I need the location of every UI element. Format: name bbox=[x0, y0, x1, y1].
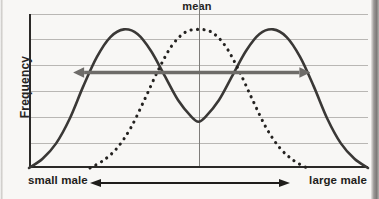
figure-root: mean Frequency small male bbox=[0, 0, 379, 199]
x-axis-low-label: small male bbox=[28, 174, 88, 186]
chart-title-mean: mean bbox=[147, 0, 247, 13]
page-edge-right bbox=[371, 0, 379, 199]
variation-range-arrow bbox=[73, 67, 310, 77]
x-axis-direction-arrow bbox=[90, 172, 290, 194]
page-edge-left bbox=[0, 0, 3, 199]
x-axis-high-label: large male bbox=[309, 174, 367, 186]
curve-original-dotted bbox=[90, 29, 307, 168]
plot-area bbox=[29, 14, 368, 168]
curves-layer bbox=[29, 14, 368, 168]
curve-disruptive-solid bbox=[29, 29, 368, 168]
x-axis-annotation-row: small male large male bbox=[0, 172, 379, 194]
